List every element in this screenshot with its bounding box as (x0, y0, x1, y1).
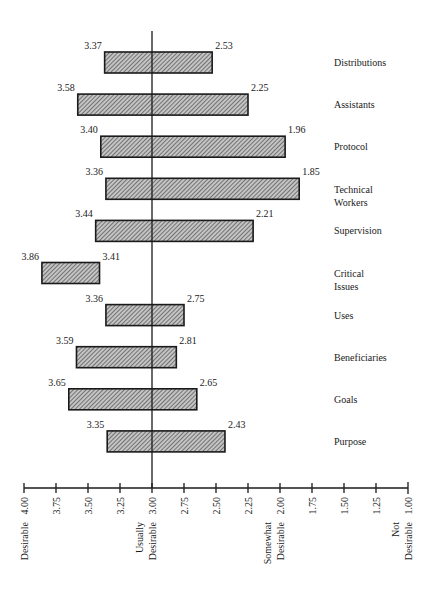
x-anchor-label: Somewhat (262, 522, 273, 564)
bar-low-label: 2.65 (200, 377, 218, 388)
x-anchor-label: Desirable (19, 521, 30, 560)
bar-protocol (101, 136, 285, 157)
bar-high-label: 3.36 (85, 293, 103, 304)
category-label: Technical (334, 184, 373, 195)
bar-goals (69, 389, 197, 410)
x-tick-label: 2.75 (179, 497, 190, 515)
x-tick-label: 1.75 (307, 497, 318, 515)
category-label: Beneficiaries (334, 352, 387, 363)
category-label: Supervision (334, 225, 382, 236)
bar-supervision (96, 220, 253, 241)
bar-low-label: 1.96 (288, 124, 306, 135)
bar-high-label: 3.35 (87, 419, 105, 430)
bar-high-label: 3.86 (21, 251, 39, 262)
bar-high-label: 3.65 (48, 377, 66, 388)
x-tick-label: 2.25 (243, 497, 254, 515)
bars-layer (42, 52, 299, 452)
bar-uses (106, 305, 184, 326)
x-tick-label: 2.00 (275, 497, 286, 515)
x-tick-label: 3.75 (51, 497, 62, 515)
bar-high-label: 3.40 (80, 124, 98, 135)
x-tick-label: 4.00 (19, 497, 30, 515)
category-label: Issues (334, 281, 359, 292)
bar-low-label: 2.81 (179, 335, 197, 346)
x-anchor-label: Not (390, 522, 401, 537)
bar-low-label: 3.41 (103, 251, 121, 262)
x-tick-label: 1.00 (403, 497, 414, 515)
x-tick-label: 3.50 (83, 497, 94, 515)
x-anchor-label: Desirable (275, 521, 286, 560)
category-label: Workers (334, 197, 368, 208)
category-label: Distributions (334, 57, 386, 68)
range-bar-chart: 3.372.53Distributions3.582.25Assistants3… (0, 0, 431, 591)
bar-distributions (105, 52, 213, 73)
bar-low-label: 1.85 (302, 166, 320, 177)
bar-purpose (107, 431, 225, 452)
x-tick-label: 1.50 (339, 497, 350, 515)
x-tick-label: 1.25 (371, 497, 382, 515)
category-label: Uses (334, 310, 354, 321)
bar-high-label: 3.44 (75, 208, 93, 219)
bar-beneficiaries (76, 347, 176, 368)
category-label: Purpose (334, 436, 367, 447)
bar-critical-issues (42, 263, 100, 284)
bar-low-label: 2.75 (187, 293, 205, 304)
x-tick-label: 3.25 (115, 497, 126, 515)
category-label: Protocol (334, 141, 368, 152)
category-label: Assistants (334, 99, 375, 110)
x-anchor-label: Desirable (147, 521, 158, 560)
bar-low-label: 2.43 (228, 419, 246, 430)
category-label: Goals (334, 394, 357, 405)
bar-low-label: 2.21 (256, 208, 274, 219)
x-anchor-label: Usually (134, 522, 145, 553)
bar-high-label: 3.37 (84, 40, 102, 51)
bar-assistants (78, 94, 248, 115)
x-tick-label: 3.00 (147, 497, 158, 515)
category-label: Critical (334, 268, 364, 279)
x-anchor-label: Desirable (403, 521, 414, 560)
x-tick-label: 2.50 (211, 497, 222, 515)
bar-technical-workers (106, 178, 299, 199)
bar-high-label: 3.36 (85, 166, 103, 177)
bar-high-label: 3.59 (56, 335, 74, 346)
bar-low-label: 2.25 (251, 82, 269, 93)
bar-low-label: 2.53 (215, 40, 233, 51)
bar-high-label: 3.58 (57, 82, 75, 93)
